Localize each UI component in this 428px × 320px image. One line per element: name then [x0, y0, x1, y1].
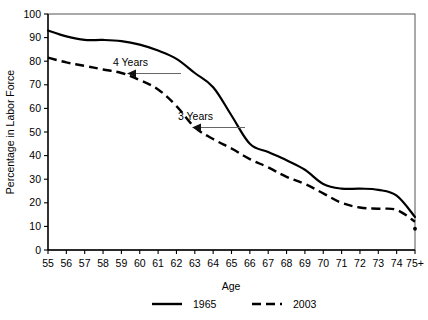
- extra-data-points: [413, 227, 417, 231]
- x-tick-label: 74: [391, 257, 403, 269]
- x-tick-label: 69: [299, 257, 311, 269]
- x-tick-label: 68: [281, 257, 293, 269]
- x-tick-label: 70: [317, 257, 329, 269]
- x-tick-label: 62: [171, 257, 183, 269]
- y-tick-label: 10: [29, 220, 41, 232]
- annotation-label: 3 Years: [178, 110, 213, 122]
- x-tick-label: 60: [134, 257, 146, 269]
- legend-label-1965: 1965: [193, 298, 217, 310]
- y-tick-label: 40: [29, 149, 41, 161]
- x-tick-label: 57: [79, 257, 91, 269]
- annotation-label: 4 Years: [113, 56, 148, 68]
- y-tick-label: 80: [29, 55, 41, 67]
- y-tick-label: 20: [29, 196, 41, 208]
- x-tick-label: 72: [354, 257, 366, 269]
- y-tick-label: 70: [29, 78, 41, 90]
- x-tick-label: 58: [97, 257, 109, 269]
- x-axis-title: Age: [222, 280, 241, 292]
- x-tick-label: 64: [207, 257, 219, 269]
- data-point-marker: [413, 227, 417, 231]
- y-tick-label: 30: [29, 173, 41, 185]
- x-tick-label: 65: [226, 257, 238, 269]
- y-tick-label: 0: [35, 244, 41, 256]
- y-tick-label: 90: [29, 31, 41, 43]
- x-tick-label: 55: [42, 257, 54, 269]
- x-tick-label: 71: [336, 257, 348, 269]
- y-axis-tick-labels: 0 10 20 30 40 50 60 70 80 90 100: [23, 8, 41, 256]
- x-tick-label: 67: [262, 257, 274, 269]
- y-tick-label: 60: [29, 102, 41, 114]
- x-axis-tick-labels: 5556575859606162636465666768697071727374…: [42, 257, 424, 269]
- x-tick-label: 56: [61, 257, 73, 269]
- chart-legend: 1965 2003: [152, 298, 317, 310]
- y-tick-label: 100: [23, 8, 41, 20]
- x-tick-label: 73: [372, 257, 384, 269]
- labor-force-line-chart: 0 10 20 30 40 50 60 70 80 90 100 Percent…: [0, 0, 428, 320]
- plot-area-frame: [48, 14, 415, 250]
- legend-label-2003: 2003: [293, 298, 317, 310]
- x-tick-label: 59: [116, 257, 128, 269]
- x-tick-label: 61: [152, 257, 164, 269]
- x-tick-label: 63: [189, 257, 201, 269]
- chart-figure: 0 10 20 30 40 50 60 70 80 90 100 Percent…: [0, 0, 428, 320]
- y-axis-title: Percentage in Labor Force: [4, 70, 16, 194]
- x-tick-label: 75+: [406, 257, 424, 269]
- x-axis-ticks: [48, 250, 415, 254]
- y-tick-label: 50: [29, 126, 41, 138]
- x-tick-label: 66: [244, 257, 256, 269]
